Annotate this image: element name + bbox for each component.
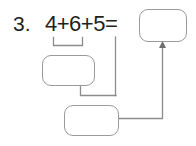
worksheet-problem: 3. 4+6+5=: [0, 0, 196, 146]
arrow-up-icon: [159, 41, 166, 48]
answer-box-step[interactable]: [64, 105, 119, 136]
connector-step-to-total: [119, 46, 163, 119]
answer-box-total[interactable]: [139, 9, 187, 42]
connector-partial-sum-to-step: [81, 86, 117, 96]
problem-number: 3.: [13, 12, 31, 36]
answer-box-partial-sum[interactable]: [42, 55, 95, 86]
grouping-bracket: [54, 38, 83, 46]
equation-expression: 4+6+5=: [45, 12, 117, 36]
